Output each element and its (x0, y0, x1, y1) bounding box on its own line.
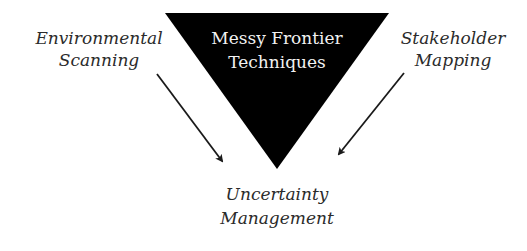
center-label-line-1: Messy Frontier (211, 28, 343, 48)
output-label-line-1: Uncertainty (226, 184, 329, 204)
output-label-line-2: Management (219, 208, 334, 228)
right-arrow-icon (339, 73, 404, 154)
left-arrow-icon (157, 74, 222, 161)
left-input-label-line-2: Scanning (59, 50, 140, 70)
diagram-svg: Messy Frontier Techniques Environmental … (0, 0, 527, 251)
left-input-label-line-1: Environmental (34, 28, 162, 48)
diagram-canvas: Messy Frontier Techniques Environmental … (0, 0, 527, 251)
right-input-label-line-2: Mapping (414, 50, 492, 70)
center-label-line-2: Techniques (228, 52, 326, 72)
right-input-label-line-1: Stakeholder (401, 28, 507, 48)
